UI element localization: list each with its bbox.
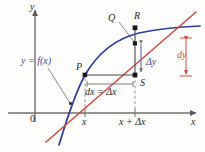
point-label-Q: Q (108, 13, 115, 23)
point-label-S: S (140, 78, 145, 88)
function-curve (59, 26, 200, 145)
figure-canvas (0, 0, 205, 152)
curve-tangent-intersection-marker (69, 102, 72, 105)
y-axis-label: y (30, 2, 34, 12)
point-S-marker (133, 73, 138, 78)
tick-label-x: x (82, 117, 86, 127)
dx-equals-delta-x-label: dx = Δx (85, 87, 117, 97)
delta-y-label: Δy (146, 57, 156, 67)
point-label-R: R (134, 11, 140, 21)
tick-label-x-plus-delta-x: x + Δx (119, 117, 146, 127)
point-label-P: P (76, 62, 82, 72)
point-P-marker (83, 73, 88, 78)
point-R-marker (133, 25, 138, 30)
differentials-figure: y x 0 y = f(x) P Q R S dy Δy dx = Δx x x… (0, 0, 205, 152)
point-Q-marker (133, 41, 137, 45)
x-axis-label: x (191, 117, 195, 127)
axis-group (8, 10, 196, 122)
function-label: y = f(x) (21, 56, 51, 66)
origin-label: 0 (30, 114, 35, 124)
function-label-leader (48, 68, 70, 103)
dy-label: dy (177, 50, 186, 60)
